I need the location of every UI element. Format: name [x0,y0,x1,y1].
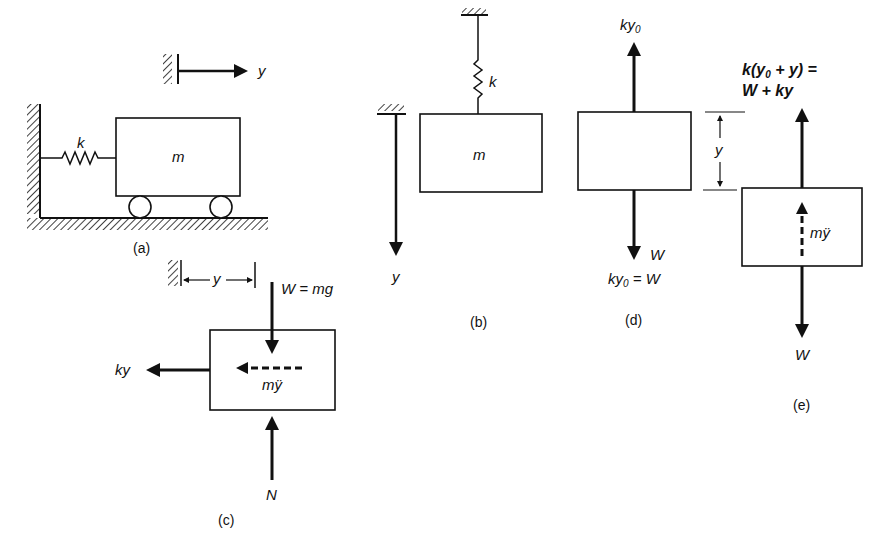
mass-label: m [172,148,185,165]
weight-label: W = mg [281,280,334,297]
spring-label: k [489,73,498,90]
spring-icon [474,15,482,114]
spring-force-label: ky [115,361,132,378]
inertia-label: mÿ [262,376,283,393]
spring-force-equation-line1: k(y0 + y) = [742,61,817,80]
reference-ground-icon [377,104,406,114]
weight-label: W [650,246,666,263]
displacement-label: y [714,141,724,158]
displacement-label: y [257,62,267,79]
wheel-icon [210,196,232,218]
panel-caption: (d) [625,312,642,328]
displacement-label: y [391,268,401,285]
spring-force-equation-line2: W + ky [742,82,794,99]
panel-c: y W = mg ky mÿ N (c) [115,260,335,528]
panel-caption: (c) [218,512,234,528]
equilibrium-equation: ky0 = W [608,270,662,289]
reference-ground-icon [163,54,178,84]
spring-icon [40,152,116,164]
panel-caption: (a) [133,240,150,256]
panel-e: k(y0 + y) = W + ky mÿ W (e) [742,61,862,413]
figure-canvas: y k m (a) y W = mg [0,0,882,548]
panel-caption: (e) [793,397,810,413]
panel-d: ky0 W ky0 = W (d) y [578,16,745,328]
inertia-label: mÿ [810,224,831,241]
spring-force-label: ky0 [620,16,641,35]
normal-force-label: N [266,486,277,503]
free-body-block [578,112,691,190]
panel-a: y k m (a) [27,54,268,256]
mass-label: m [473,146,486,163]
displacement-label: y [212,270,222,287]
reference-ground-icon [168,260,181,286]
spring-label: k [77,134,86,151]
wall-icon [27,104,40,218]
weight-label: W [795,346,811,363]
wheel-icon [129,196,151,218]
floor-icon [27,218,268,230]
ceiling-support-icon [461,8,488,15]
panel-caption: (b) [470,314,487,330]
panel-b: k m y (b) [377,8,542,330]
